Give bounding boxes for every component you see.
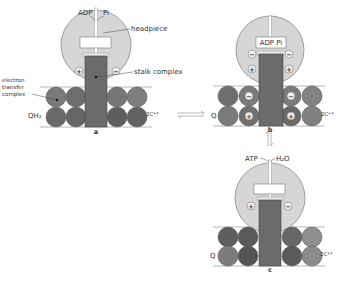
etc-sphere: [238, 227, 258, 247]
etc-sphere: [302, 86, 322, 106]
q-label: Q: [211, 112, 217, 120]
charge-sign: +: [288, 113, 294, 121]
panel-letter-b: b: [268, 126, 273, 134]
etc-label-line3: complex: [2, 91, 26, 98]
stalk-complex: [85, 56, 107, 127]
panel-c: + − ATP H₂O Q 2C⁺³ c: [210, 155, 332, 274]
charge-sign: +: [249, 66, 255, 74]
panel-a: + − ADP Pi headpiece stalk complex elect…: [2, 8, 183, 136]
adp-pi-bound-label: ADP Pi: [260, 39, 283, 47]
etc-sphere: [302, 106, 322, 126]
atp-label: ATP: [245, 155, 258, 163]
charge-sign: +: [246, 113, 252, 121]
charge-sign: +: [286, 66, 292, 74]
etc-sphere: [66, 107, 86, 127]
etc-label-line1: electron: [2, 77, 25, 83]
charge-sign: −: [249, 51, 255, 59]
atp-synthase-diagram: + − ADP Pi headpiece stalk complex elect…: [0, 0, 343, 285]
binding-site-box: [80, 37, 111, 48]
qh2-label: QH₂: [28, 112, 42, 120]
etc-sphere: [66, 87, 86, 107]
panel-letter-a: a: [94, 128, 98, 136]
etc-sphere: [218, 86, 238, 106]
charge-sign: −: [288, 93, 294, 101]
stalk-complex: [259, 54, 283, 126]
etc-sphere: [282, 227, 302, 247]
etc-sphere: [107, 107, 127, 127]
etc-label-line2: transfer: [2, 84, 24, 90]
stalk-complex-label: stalk complex: [134, 68, 183, 76]
binding-site-box: [254, 184, 285, 194]
panel-b: ADP Pi − − + + − − + + Q 2C⁺³ b: [211, 16, 333, 134]
q-label: Q: [210, 252, 216, 260]
headpiece-slit: [95, 8, 98, 38]
headpiece-slit: [269, 16, 272, 37]
cytochrome-c-label: 2C⁺³: [146, 111, 158, 117]
etc-sphere: [302, 227, 322, 247]
etc-sphere: [46, 87, 66, 107]
charge-sign: +: [248, 203, 254, 211]
cytochrome-c-label: 2C⁺³: [320, 251, 332, 257]
etc-sphere: [127, 107, 147, 127]
etc-sphere: [218, 246, 238, 266]
etc-sphere: [238, 246, 258, 266]
stalk-complex: [259, 200, 281, 266]
etc-sphere: [218, 227, 238, 247]
charge-sign: −: [286, 51, 292, 59]
leader-dot: [95, 76, 97, 78]
headpiece-label: headpiece: [131, 25, 167, 33]
h2o-label: H₂O: [276, 155, 290, 163]
panel-letter-c: c: [268, 266, 272, 274]
headpiece-slit: [269, 160, 272, 185]
etc-sphere: [218, 106, 238, 126]
etc-sphere: [282, 246, 302, 266]
product-arrows: [260, 158, 275, 162]
equilibrium-arrow-horizontal: [178, 111, 204, 118]
etc-sphere: [46, 107, 66, 127]
leader-dot: [56, 99, 58, 101]
charge-sign: −: [246, 93, 252, 101]
etc-sphere: [107, 87, 127, 107]
charge-sign: +: [76, 68, 82, 76]
adp-label: ADP: [78, 9, 92, 17]
cytochrome-c-label: 2C⁺³: [321, 111, 333, 117]
charge-sign: −: [285, 203, 291, 211]
etc-sphere: [127, 87, 147, 107]
etc-sphere: [302, 246, 322, 266]
